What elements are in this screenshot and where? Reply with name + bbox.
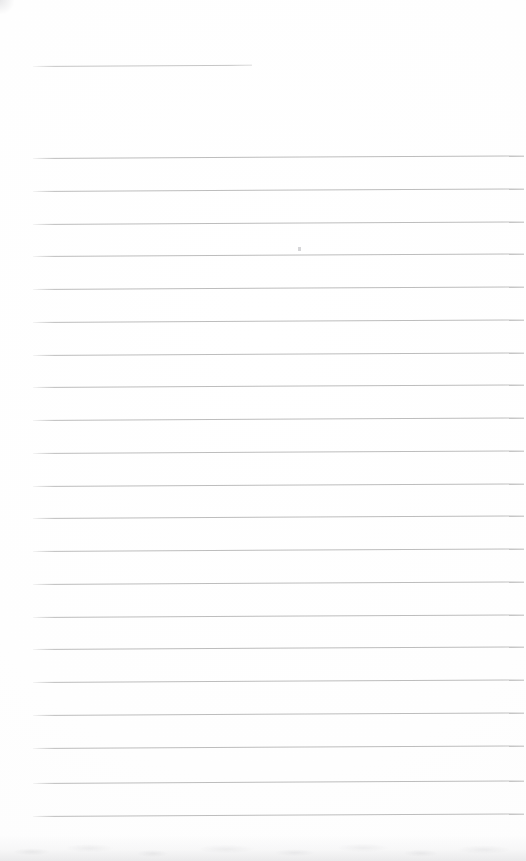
- rule-4: [33, 253, 524, 257]
- rule-1: [33, 155, 524, 159]
- dust-speck: [298, 247, 301, 251]
- title-rule: [33, 65, 252, 67]
- rule-2: [33, 188, 524, 192]
- paper-surface: [0, 0, 526, 861]
- rule-15: [33, 614, 524, 618]
- rule-19: [33, 745, 524, 749]
- rule-17: [33, 679, 524, 683]
- rule-20: [33, 780, 524, 784]
- rule-14: [33, 581, 524, 585]
- rule-7: [33, 352, 524, 356]
- rule-9: [33, 417, 524, 421]
- rule-18: [33, 712, 524, 716]
- rule-13: [33, 548, 524, 552]
- rule-3: [33, 221, 524, 225]
- corner-smudge-artifact: [0, 0, 14, 14]
- rule-21: [33, 813, 524, 817]
- bottom-scan-shadow: [0, 835, 526, 861]
- rule-11: [33, 483, 524, 487]
- bottom-scan-noise: [0, 841, 526, 859]
- rule-10: [33, 450, 524, 454]
- rule-16: [33, 646, 524, 650]
- rule-12: [33, 515, 524, 519]
- rule-6: [33, 319, 524, 323]
- rule-5: [33, 286, 524, 290]
- rule-8: [33, 384, 524, 388]
- scanned-page: [0, 0, 526, 861]
